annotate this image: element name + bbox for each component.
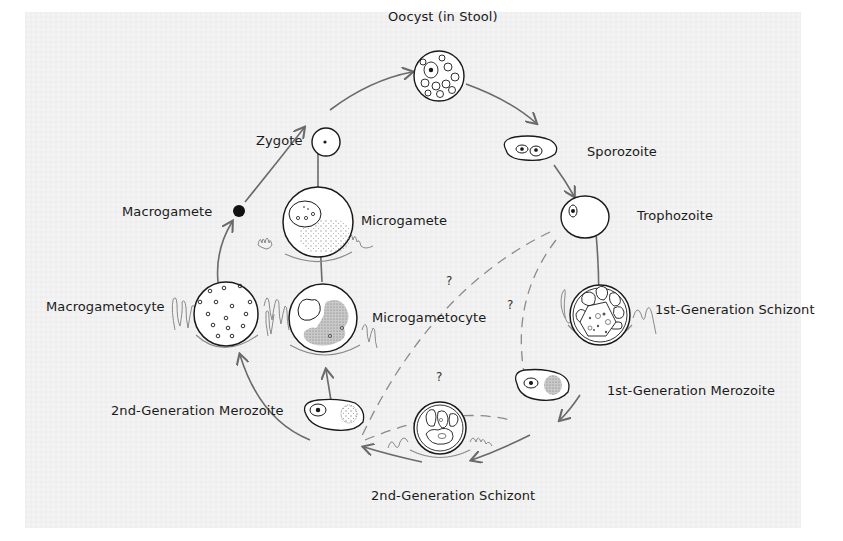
second-generation-merozoite-cell [305, 399, 364, 430]
label-macrogametocyte: Macrogametocyte [46, 299, 165, 314]
label-microgametocyte: Microgametocyte [372, 310, 486, 325]
sporozoite-cell [504, 136, 556, 160]
zygote-cell [312, 128, 340, 156]
label-macrogamete: Macrogamete [122, 204, 212, 219]
macrogamete-dot [233, 205, 245, 217]
label-trophozoite: Trophozoite [637, 208, 713, 223]
label-oocyst: Oocyst (in Stool) [388, 9, 498, 24]
microgametocyte-cell [266, 284, 377, 355]
label-second-generation-schizont: 2nd-Generation Schizont [371, 488, 535, 503]
oocyst-cell [414, 51, 464, 101]
label-microgamete: Microgamete [361, 213, 447, 228]
trophozoite-cell [561, 196, 609, 238]
second-generation-schizont-cell [388, 402, 492, 458]
first-generation-schizont-cell [561, 285, 656, 345]
label-zygote: Zygote [256, 133, 303, 148]
microgamete-cell [258, 187, 373, 262]
label-first-generation-merozoite: 1st-Generation Merozoite [607, 383, 775, 398]
life-cycle-diagram [0, 0, 843, 541]
label-first-generation-schizont: 1st-Generation Schizont [655, 302, 815, 317]
uncertain-mark: ? [446, 274, 452, 288]
label-sporozoite: Sporozoite [587, 144, 657, 159]
label-second-generation-merozoite: 2nd-Generation Merozoite [111, 403, 284, 418]
macrogametocyte-cell [172, 282, 289, 348]
uncertain-mark: ? [507, 298, 513, 312]
first-generation-merozoite-cell [516, 370, 569, 401]
uncertain-mark: ? [436, 370, 442, 384]
